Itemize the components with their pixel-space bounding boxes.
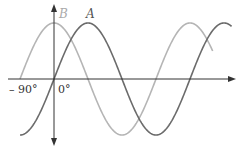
curve-b-label: B [59, 9, 68, 20]
axes [8, 4, 236, 146]
sine-cosine-plot [0, 0, 242, 148]
y-axis-down-arrow-icon [51, 138, 57, 146]
x-axis-arrow-icon [228, 76, 236, 82]
tick-label-0: 0° [58, 84, 71, 95]
curve-a-label: A [86, 9, 95, 20]
y-axis-up-arrow-icon [51, 4, 57, 12]
tick-label-neg90: – 90° [9, 84, 38, 95]
